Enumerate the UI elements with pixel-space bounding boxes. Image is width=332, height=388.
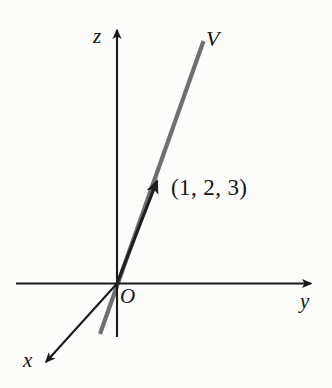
y-axis-label: y: [300, 291, 309, 312]
line-v-label: V: [206, 28, 219, 50]
vector-arrow: [117, 181, 157, 284]
vector-point-label: (1, 2, 3): [171, 176, 247, 199]
x-axis-label: x: [23, 350, 32, 371]
origin-label: O: [120, 286, 135, 307]
x-axis: [46, 284, 117, 363]
vector-diagram-figure: z V O y x (1, 2, 3): [0, 0, 332, 388]
diagram-canvas: [0, 0, 332, 388]
z-axis-label: z: [93, 26, 101, 47]
